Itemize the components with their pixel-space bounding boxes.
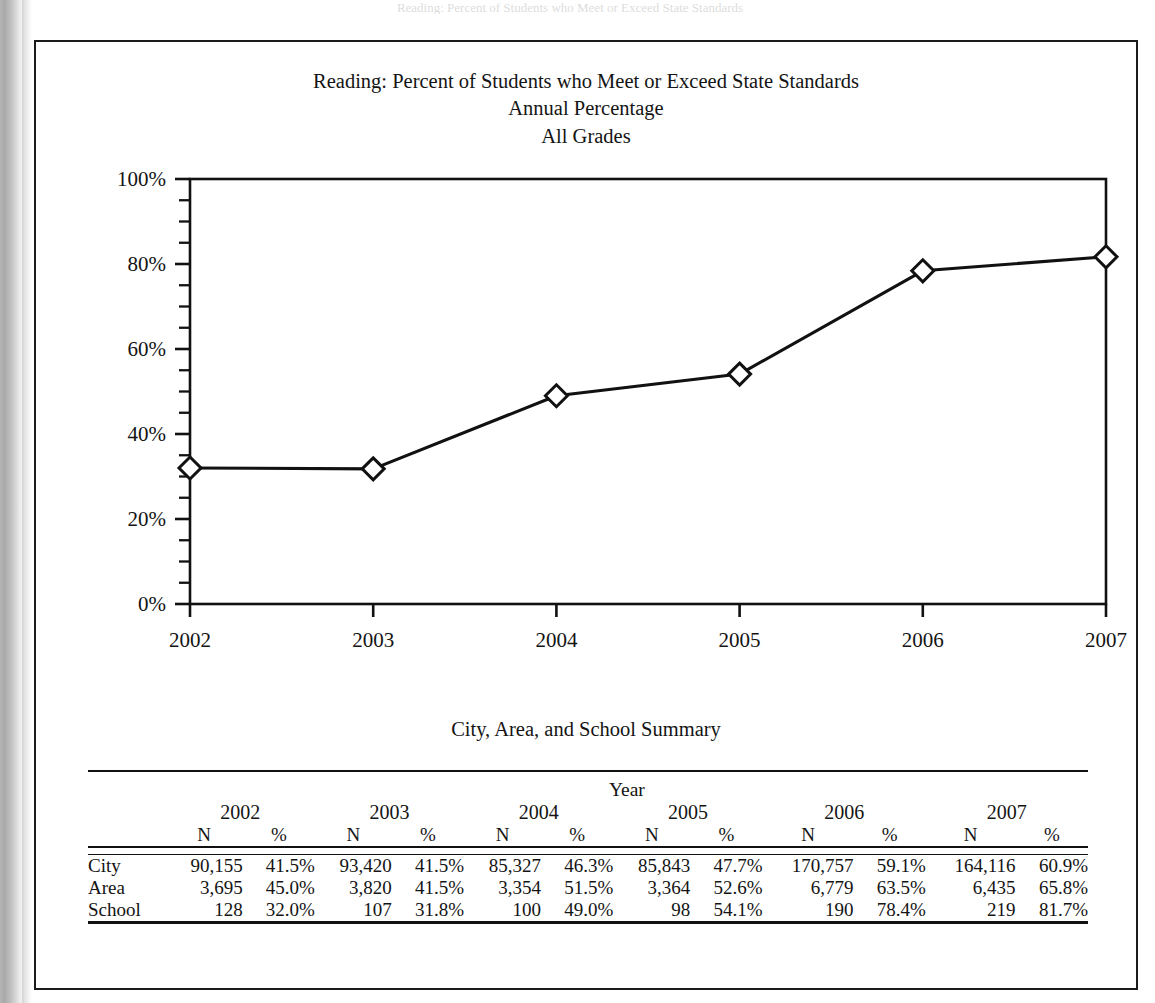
table-subheader-pct: % — [243, 824, 315, 847]
table-cell-n: 85,327 — [464, 855, 541, 878]
table-cell-n: 3,354 — [464, 877, 541, 899]
table-subheader-pct: % — [690, 824, 762, 847]
page-frame: Reading: Percent of Students who Meet or… — [34, 40, 1138, 990]
table-cell-n: 164,116 — [926, 855, 1016, 878]
table-column-header-year: 2003 — [315, 801, 464, 824]
year-header-spacer — [88, 801, 166, 824]
table-cell-pct: 63.5% — [853, 877, 925, 899]
table-row: Area3,69545.0%3,82041.5%3,35451.5%3,3645… — [88, 877, 1088, 899]
table-column-header-year: 2006 — [763, 801, 926, 824]
table-subheader-n: N — [166, 824, 243, 847]
table-cell-n: 128 — [166, 899, 243, 923]
table-cell-pct: 54.1% — [690, 899, 762, 923]
table-column-header-year: 2005 — [613, 801, 762, 824]
x-axis-tick-label: 2006 — [902, 628, 944, 652]
summary-table: Year200220032004200520062007N%N%N%N%N%N%… — [88, 770, 1088, 929]
table-subheader-pct: % — [392, 824, 464, 847]
y-axis-tick-label: 0% — [138, 592, 166, 616]
table-bottom-rule — [88, 923, 1088, 930]
subheader-spacer — [88, 824, 166, 847]
table-subheader-n: N — [926, 824, 1016, 847]
table-caption: City, Area, and School Summary — [36, 718, 1136, 741]
table-cell-pct: 81.7% — [1016, 899, 1088, 923]
y-axis-tick-label: 20% — [128, 507, 167, 531]
table-subheader-pct: % — [1016, 824, 1088, 847]
y-axis-tick-label: 100% — [117, 167, 166, 191]
table-cell-n: 6,779 — [763, 877, 854, 899]
table-cell-pct: 31.8% — [392, 899, 464, 923]
table-subheader-pct: % — [541, 824, 613, 847]
y-axis-tick-label: 80% — [128, 252, 167, 276]
table-cell-n: 3,364 — [613, 877, 690, 899]
line-chart: 0%20%40%60%80%100%2002200320042005200620… — [36, 42, 1140, 662]
x-axis-tick-label: 2002 — [169, 628, 211, 652]
y-axis-tick-label: 40% — [128, 422, 167, 446]
table-subheader-n: N — [315, 824, 392, 847]
table-subheader-n: N — [613, 824, 690, 847]
table-cell-pct: 46.3% — [541, 855, 613, 878]
table-column-header-year: 2002 — [166, 801, 315, 824]
table-column-header-year: 2004 — [464, 801, 613, 824]
table-subheader-pct: % — [853, 824, 925, 847]
table-year-header-row: 200220032004200520062007 — [88, 801, 1088, 824]
plot-frame — [190, 179, 1106, 604]
table-cell-n: 100 — [464, 899, 541, 923]
table-cell-n: 6,435 — [926, 877, 1016, 899]
table-cell-pct: 41.5% — [392, 877, 464, 899]
table-cell-pct: 47.7% — [690, 855, 762, 878]
table-cell-n: 3,695 — [166, 877, 243, 899]
table-cell-pct: 78.4% — [853, 899, 925, 923]
table-cell-pct: 49.0% — [541, 899, 613, 923]
table-header-rule — [88, 847, 1088, 855]
summary-table-container: Year200220032004200520062007N%N%N%N%N%N%… — [88, 770, 1088, 929]
table-cell-pct: 59.1% — [853, 855, 925, 878]
table-group-header-year: Year — [166, 779, 1088, 801]
table-cell-pct: 52.6% — [690, 877, 762, 899]
y-axis-tick-label: 60% — [128, 337, 167, 361]
table-row: City90,15541.5%93,42041.5%85,32746.3%85,… — [88, 855, 1088, 878]
page-top-ghost-text: Reading: Percent of Students who Meet or… — [120, 0, 1020, 14]
scan-gutter-strip — [0, 0, 24, 1003]
group-header-spacer — [88, 779, 166, 801]
table-cell-n: 170,757 — [763, 855, 854, 878]
table-cell-pct: 41.5% — [392, 855, 464, 878]
table-row-label: Area — [88, 877, 166, 899]
table-row-label: School — [88, 899, 166, 923]
chart-canvas: 0%20%40%60%80%100%2002200320042005200620… — [36, 42, 1140, 662]
table-cell-pct: 65.8% — [1016, 877, 1088, 899]
table-cell-n: 98 — [613, 899, 690, 923]
table-cell-pct: 51.5% — [541, 877, 613, 899]
table-cell-n: 90,155 — [166, 855, 243, 878]
table-row: School12832.0%10731.8%10049.0%9854.1%190… — [88, 899, 1088, 923]
x-axis-tick-label: 2005 — [719, 628, 761, 652]
table-column-header-year: 2007 — [926, 801, 1088, 824]
table-top-rule — [88, 771, 1088, 779]
table-cell-pct: 45.0% — [243, 877, 315, 899]
table-cell-n: 190 — [763, 899, 854, 923]
x-axis-tick-label: 2003 — [352, 628, 394, 652]
table-cell-n: 107 — [315, 899, 392, 923]
table-cell-n: 93,420 — [315, 855, 392, 878]
x-axis-tick-label: 2007 — [1085, 628, 1127, 652]
table-cell-pct: 32.0% — [243, 899, 315, 923]
table-cell-pct: 60.9% — [1016, 855, 1088, 878]
table-group-header-row: Year — [88, 779, 1088, 801]
table-cell-pct: 41.5% — [243, 855, 315, 878]
table-cell-n: 3,820 — [315, 877, 392, 899]
table-subheader-n: N — [464, 824, 541, 847]
table-cell-n: 219 — [926, 899, 1016, 923]
x-axis-tick-label: 2004 — [535, 628, 578, 652]
table-cell-n: 85,843 — [613, 855, 690, 878]
table-subheader-row: N%N%N%N%N%N% — [88, 824, 1088, 847]
table-row-label: City — [88, 855, 166, 878]
scan-gutter-shadow — [22, 0, 32, 1003]
table-subheader-n: N — [763, 824, 854, 847]
